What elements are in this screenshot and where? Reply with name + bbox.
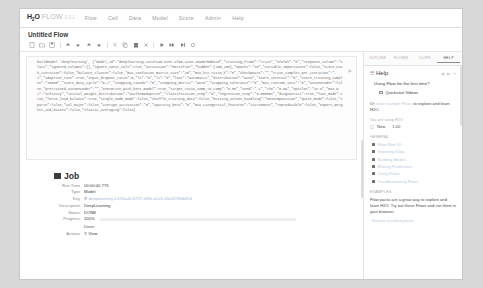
job-field-key: Key ⚲deeplearning-1474fa40-6737-4f90-a1e… — [34, 197, 349, 202]
code-cell-source[interactable]: buildModel 'deeplearning', {"model_id":"… — [37, 60, 344, 113]
examples-description: Flow packs are a great way to explore an… — [370, 197, 456, 215]
job-field-actions: Actions ⚲View — [34, 232, 349, 237]
bullet-icon — [372, 165, 375, 168]
quickstart-videos-link[interactable]: Quickstart Videos — [379, 90, 456, 95]
version-value: 1.00 — [392, 124, 400, 129]
job-list-icon — [54, 173, 61, 180]
status-badge: DONE — [84, 211, 96, 216]
help-panel-controls: ◀ ▶ ✕ — [441, 71, 456, 76]
menu-item-admin[interactable]: Admin — [205, 15, 221, 21]
general-link-label: Flow Web UI — [378, 142, 401, 147]
sidebar-scrollbar[interactable] — [460, 66, 462, 126]
navbar: H2O FLOW 0.0.1 Flow Cell Data Model Scor… — [20, 9, 462, 28]
help-back-icon[interactable]: ◀ — [441, 71, 444, 76]
toolbar-separator — [107, 42, 108, 48]
job-field-label: Description — [34, 204, 84, 209]
browse-packs-link[interactable]: Browse installed packs... — [372, 218, 456, 223]
list-item[interactable]: Flow Web UI — [372, 142, 456, 147]
flow-title[interactable]: Untitled Flow — [28, 31, 462, 38]
list-item[interactable]: Making Predictions — [372, 164, 456, 169]
insert-cell-above-icon[interactable] — [85, 41, 92, 48]
bullet-icon — [372, 172, 375, 175]
job-field-description: Description DeepLearning — [34, 204, 349, 209]
clear-output-icon[interactable] — [189, 41, 196, 48]
open-flow-icon[interactable] — [38, 41, 45, 48]
job-field-value[interactable]: ⚲deeplearning-1474fa40-6737-4f90-a1e3-43… — [84, 197, 192, 202]
job-heading: Job — [54, 172, 349, 181]
tab-outline[interactable]: OUTLINE — [366, 55, 389, 63]
job-field-label: Actions — [34, 232, 84, 237]
video-icon — [379, 91, 383, 95]
job-field-label: Status — [34, 211, 84, 216]
bullet-icon — [372, 143, 375, 146]
brand-version-text: 0.0.1 — [65, 15, 75, 20]
job-field-label: Run Time — [34, 184, 84, 189]
copy-cell-icon[interactable] — [122, 41, 129, 48]
toolbar-separator — [153, 42, 154, 48]
job-field-label: Progress — [34, 217, 84, 222]
general-link-label: Making Predictions — [378, 164, 413, 169]
run-all-cells-icon[interactable] — [169, 41, 176, 48]
notebook-scrollbar[interactable] — [361, 140, 363, 198]
menu-item-score[interactable]: Score — [179, 15, 194, 21]
brand-logo[interactable]: H2O FLOW 0.0.1 — [27, 13, 75, 22]
job-output-cell: Job Run Time 00:00:00.773 Type Model Key… — [26, 168, 357, 245]
move-cell-down-icon[interactable] — [75, 41, 82, 48]
help-book-icon: ☵ — [370, 70, 374, 76]
save-flow-icon[interactable] — [48, 41, 55, 48]
job-field-value: Model — [84, 190, 95, 195]
general-section-heading: GENERAL — [370, 135, 456, 139]
view-action-link[interactable]: View — [89, 231, 98, 236]
bullet-icon — [372, 150, 375, 153]
cut-cell-icon[interactable] — [112, 41, 119, 48]
example-flows-link[interactable]: view example Flows — [376, 101, 413, 106]
menu-item-help[interactable]: Help — [232, 15, 244, 21]
job-field-label: Key — [34, 197, 84, 202]
list-item[interactable]: Troubleshooting Flows — [372, 179, 456, 184]
continue-running-icon[interactable] — [179, 41, 186, 48]
list-item[interactable]: Building Models — [372, 157, 456, 162]
tab-help[interactable]: HELP — [437, 55, 460, 63]
toolbar-separator — [60, 42, 61, 48]
version-label: New — [377, 124, 385, 129]
cell-run-icon[interactable] — [347, 60, 353, 66]
progress-note: Done. — [84, 224, 349, 229]
paste-cell-icon[interactable] — [132, 41, 139, 48]
tab-clips[interactable]: CLIPS — [414, 55, 437, 63]
brand-flow-text: FLOW — [42, 13, 63, 20]
job-field-type: Type Model — [34, 190, 349, 195]
help-forward-icon[interactable]: ▶ — [447, 71, 450, 76]
code-cell[interactable]: ·· buildModel 'deeplearning', {"model_id… — [26, 56, 357, 160]
help-close-icon[interactable]: ✕ — [453, 71, 456, 76]
job-key-link[interactable]: deeplearning-1474fa40-6737-4f90-a1e3-43a… — [89, 196, 192, 201]
help-panel: ☵ Help ◀ ▶ ✕ Using Flow for the first ti… — [364, 66, 462, 280]
notebook-area[interactable]: ·· buildModel 'deeplearning', {"model_id… — [20, 52, 363, 280]
job-actions[interactable]: ⚲View — [84, 232, 98, 237]
tab-flows[interactable]: FLOWS — [390, 55, 413, 63]
help-panel-header: ☵ Help ◀ ▶ ✕ — [370, 70, 456, 76]
version-heading: You are using H2O — [370, 118, 456, 122]
insert-cell-below-icon[interactable] — [95, 41, 102, 48]
move-cell-up-icon[interactable] — [65, 41, 72, 48]
run-cell-icon[interactable] — [159, 41, 166, 48]
version-row: ▢ New 1.00 — [370, 124, 456, 129]
workspace: ·· buildModel 'deeplearning', {"model_id… — [20, 52, 462, 280]
menu-item-flow[interactable]: Flow — [85, 15, 97, 21]
job-progress: 100% — [84, 217, 296, 222]
general-link-label: Building Models — [378, 157, 407, 162]
bullet-icon — [372, 180, 375, 183]
general-link-label: Troubleshooting Flows — [378, 179, 419, 184]
new-flow-icon[interactable] — [28, 41, 35, 48]
menu-item-model[interactable]: Model — [152, 15, 168, 21]
menu-item-cell[interactable]: Cell — [108, 15, 118, 21]
quickstart-videos-label: Quickstart Videos — [385, 90, 418, 95]
job-field-runtime: Run Time 00:00:00.773 — [34, 184, 349, 189]
package-icon: ▢ — [370, 124, 374, 129]
list-item[interactable]: Using Flows — [372, 171, 456, 176]
list-item[interactable]: Importing Data — [372, 149, 456, 154]
menu-item-data[interactable]: Data — [129, 15, 141, 21]
delete-cell-icon[interactable] — [142, 41, 149, 48]
flow-toolbar — [20, 38, 462, 52]
examples-section-heading: EXAMPLES — [370, 190, 456, 194]
job-field-progress: Progress 100% — [34, 217, 349, 222]
